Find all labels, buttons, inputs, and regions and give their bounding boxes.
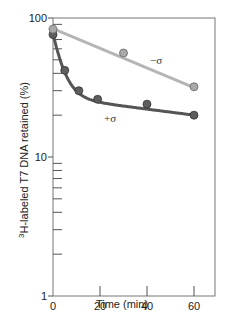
y-tick-label: 10: [35, 151, 47, 163]
data-point-minus-sigma: [120, 49, 128, 57]
fit-curve-plus-sigma: [53, 34, 194, 115]
data-point-minus-sigma: [49, 25, 57, 33]
plot-series: [49, 25, 198, 119]
x-tick-label: 0: [50, 300, 56, 312]
fit-line-minus-sigma: [53, 29, 194, 88]
data-point-minus-sigma: [190, 83, 198, 91]
x-axis-title: Time (min): [96, 298, 148, 310]
plot-frame: [53, 18, 215, 296]
series-label-plus-sigma: +σ: [104, 112, 116, 124]
y-tick-label: 100: [29, 12, 47, 24]
y-axis-title-text: H-labeled T7 DNA retained (%): [18, 82, 30, 233]
plot-border: [53, 18, 215, 296]
y-axis-title: 3H-labeled T7 DNA retained (%): [17, 82, 30, 238]
y-tick-label: 1: [41, 290, 47, 302]
data-point-plus-sigma: [94, 95, 102, 103]
x-tick-label: 60: [188, 300, 200, 312]
data-point-plus-sigma: [190, 111, 198, 119]
data-point-plus-sigma: [143, 100, 151, 108]
data-point-plus-sigma: [75, 87, 83, 95]
y-axis: 110100: [29, 12, 62, 302]
data-point-plus-sigma: [61, 66, 69, 74]
series-label-minus-sigma: −σ: [150, 54, 162, 66]
chart: 110100 0204060 Time (min) 3H-labeled T7 …: [0, 0, 230, 327]
